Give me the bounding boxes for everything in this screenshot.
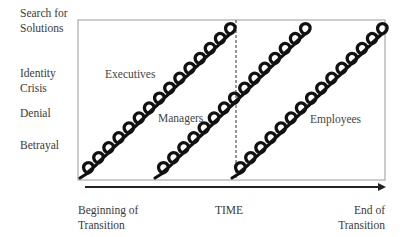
spirals [80, 24, 387, 178]
spiral-chain-executives [80, 24, 235, 178]
spiral-chain-managers [155, 24, 310, 178]
group-label-employees: Employees [310, 113, 361, 125]
x-label-line: Transition [335, 218, 385, 233]
spiral-chain-employees [232, 24, 387, 178]
x-label-beginning: Beginning of Transition [78, 203, 138, 233]
x-label-line: End of [335, 203, 385, 218]
group-label-managers: Managers [158, 112, 203, 124]
x-label-line: Beginning of [78, 203, 138, 218]
x-label-end: End of Transition [335, 203, 385, 233]
group-label-executives: Executives [105, 68, 155, 80]
x-label-line: Transition [78, 218, 138, 233]
arrow-head-icon [378, 183, 386, 191]
x-label-time: TIME [215, 203, 243, 218]
